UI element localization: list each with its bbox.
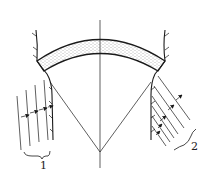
right-radial-line <box>100 82 151 152</box>
right-flow-lines <box>152 76 190 146</box>
left-brace <box>24 151 50 159</box>
diagram-canvas: 1 2 <box>0 0 212 175</box>
arch-band <box>37 40 165 72</box>
label-2: 2 <box>191 140 198 153</box>
left-flow-lines <box>17 80 53 150</box>
left-radial-line <box>50 82 100 152</box>
label-1: 1 <box>40 159 47 172</box>
right-wall <box>151 30 169 140</box>
